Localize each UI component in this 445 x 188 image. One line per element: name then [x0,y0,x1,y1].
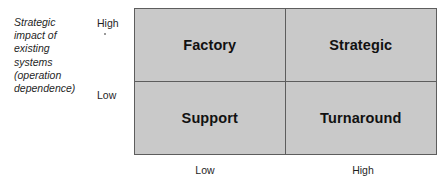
quadrant-factory: Factory [135,9,286,82]
stray-dot-marker [104,33,106,35]
quadrant-strategic-label: Strategic [329,37,392,53]
y-axis-tick-low: Low [97,89,116,101]
quadrant-turnaround-label: Turnaround [320,110,401,126]
x-axis-tick-low: Low [175,164,235,176]
quadrant-strategic: Strategic [286,9,437,82]
quadrant-support-label: Support [182,110,238,126]
y-axis-caption: Strategic impact of existing systems (op… [14,16,98,95]
y-axis-tick-high: High [97,17,119,29]
x-axis-tick-high: High [333,164,393,176]
matrix-grid: Factory Strategic Support Turnaround [134,8,437,155]
quadrant-factory-label: Factory [183,37,236,53]
strategic-grid-diagram: Strategic impact of existing systems (op… [0,0,445,188]
quadrant-turnaround: Turnaround [286,82,437,155]
quadrant-support: Support [135,82,286,155]
